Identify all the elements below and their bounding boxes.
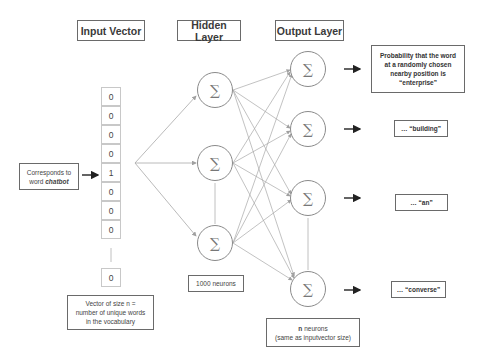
label-line: nearby position is [390,69,446,78]
input-cell: 0 [101,182,121,201]
label-line: Probability that the word [380,51,456,60]
hidden-layer-caption: 1000 neurons [188,275,244,292]
input-cell-last: 0 [101,268,121,287]
input-to-hidden-edges [135,96,196,236]
input-word-note: Corresponds to word chatbot [19,163,79,190]
input-cell: 0 [101,125,121,144]
hidden-neuron: ∑ [197,225,233,261]
output-label-an: … “an” [395,194,448,211]
input-word-note-line2: word chatbot [29,177,68,186]
hidden-neuron: ∑ [197,145,233,181]
input-cell: 0 [101,106,121,125]
output-caption-line2: (same as inputvector size) [275,333,351,342]
input-word-note-word: chatbot [45,178,68,185]
output-label-converse: … “converse” [391,281,446,298]
caption-line: number of unique words [76,308,146,317]
input-cell: 0 [101,144,121,163]
hidden-to-output-edges [233,70,294,280]
output-neuron: ∑ [290,180,326,216]
output-neuron: ∑ [290,51,326,87]
output-neuron: ∑ [290,111,326,147]
caption-line: Vector of size n = [85,299,135,308]
label-line: at a randomly chosen [385,60,452,69]
input-vector-caption: Vector of size n = number of unique word… [67,295,154,330]
caption-line: in the vocabulary [86,317,135,326]
input-cell-active: 1 [101,163,121,182]
hidden-layer-header: Hidden Layer [177,20,241,41]
input-cell: 0 [101,87,121,106]
hidden-neuron: ∑ [197,72,233,108]
input-cell: 0 [101,201,121,220]
label-line: “enterprise” [399,78,437,87]
output-neuron: ∑ [290,271,326,307]
input-word-note-line1: Corresponds to [27,168,71,177]
input-vector-header: Input Vector [77,20,145,41]
input-cell: 0 [101,220,121,239]
output-layer-caption: n neurons (same as inputvector size) [266,318,360,347]
output-label-enterprise: Probability that the word at a randomly … [371,45,465,93]
output-label-building: … “building” [394,120,448,137]
output-layer-header: Output Layer [275,20,344,41]
input-word-note-prefix: word [29,178,45,185]
output-caption-line1: n neurons [298,324,327,333]
